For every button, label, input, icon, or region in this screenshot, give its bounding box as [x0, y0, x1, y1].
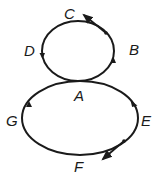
tangent-arrow-f-icon	[103, 141, 124, 159]
label-c: C	[64, 6, 75, 21]
arrow-b-icon	[111, 57, 117, 63]
label-d: D	[24, 43, 35, 58]
label-e: E	[141, 113, 151, 128]
arrow-d-icon	[40, 53, 46, 59]
label-g: G	[6, 113, 18, 128]
label-b: B	[129, 42, 139, 57]
tangent-arrow-c-icon	[84, 15, 106, 33]
label-a: A	[74, 88, 84, 103]
label-f: F	[74, 159, 83, 174]
